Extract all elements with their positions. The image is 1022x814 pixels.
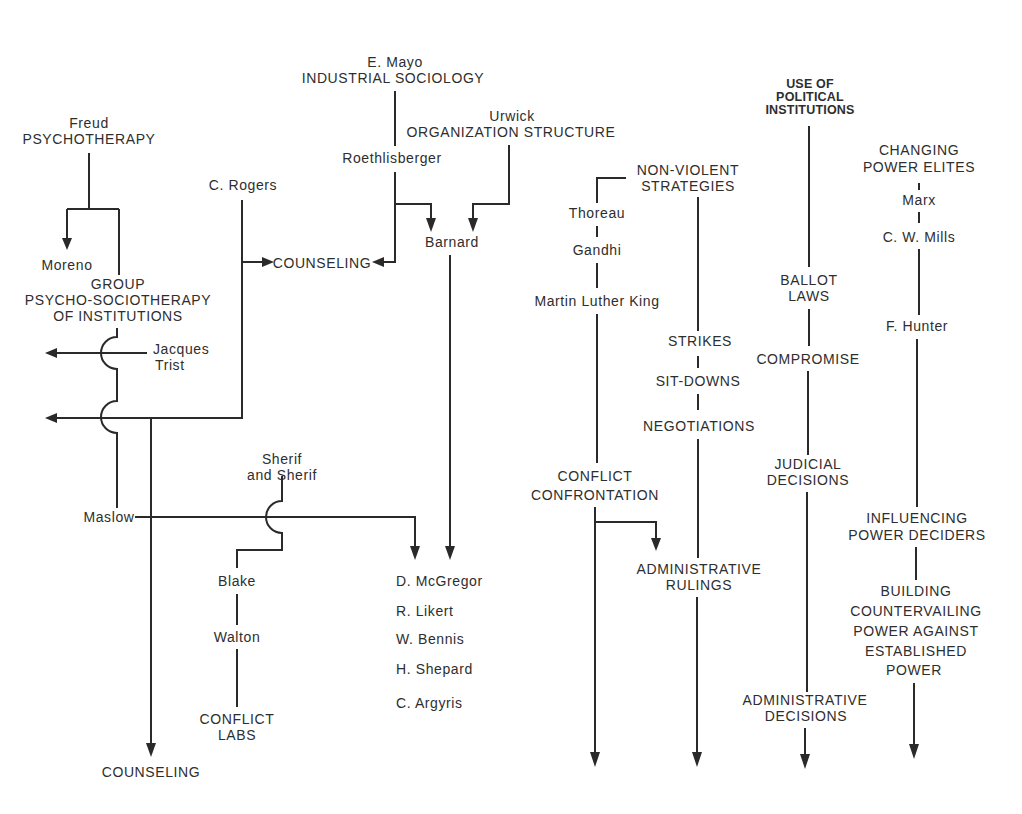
- political-line3: INSTITUTIONS: [765, 103, 854, 117]
- gandhi-label: Gandhi: [573, 242, 622, 258]
- admin-decisions-line1: ADMINISTRATIVE: [743, 692, 868, 708]
- roethlisberger-connector: [384, 172, 431, 262]
- power-elites-branch: CHANGING POWER ELITES Marx C. W. Mills F…: [848, 142, 986, 759]
- sherif-connector: [237, 476, 282, 568]
- counseling-bottom-label: COUNSELING: [102, 764, 201, 780]
- sherif-label-line1: Sherif: [262, 451, 302, 467]
- list-item: W. Bennis: [396, 631, 464, 647]
- power-elites-line2: POWER ELITES: [863, 159, 975, 175]
- king-label: Martin Luther King: [534, 293, 659, 309]
- conflict-labs-line2: LABS: [218, 727, 256, 743]
- list-item: H. Shepard: [396, 661, 473, 677]
- negotiations-label: NEGOTIATIONS: [643, 418, 755, 434]
- group-label-line1: GROUP: [91, 276, 145, 292]
- confrontation-line1: CONFLICT: [558, 468, 633, 484]
- power-elites-line1: CHANGING: [879, 142, 959, 158]
- admin-decisions-line2: DECISIONS: [765, 708, 847, 724]
- industrial-sociology-label: INDUSTRIAL SOCIOLOGY: [302, 70, 485, 86]
- arrow-down-icon: [146, 743, 156, 757]
- non-violent-line1: NON-VIOLENT: [637, 162, 739, 178]
- list-item: C. Argyris: [396, 695, 463, 711]
- barnard-label: Barnard: [425, 234, 479, 250]
- blake-label: Blake: [218, 573, 256, 589]
- trist-label: Trist: [155, 357, 185, 373]
- human-relations-list: D. McGregor R. Likert W. Bennis H. Shepa…: [396, 573, 483, 711]
- influencing-line2: POWER DECIDERS: [848, 527, 986, 543]
- walton-label: Walton: [214, 629, 261, 645]
- urwick-connector: [473, 145, 509, 220]
- arrow-down-icon: [590, 752, 600, 767]
- political-line2: POLITICAL: [776, 90, 844, 104]
- arrow-down-icon: [651, 538, 661, 551]
- freud-label: Freud: [69, 115, 109, 131]
- countervailing-line4: ESTABLISHED: [865, 643, 967, 659]
- arrow-left-icon: [45, 348, 57, 358]
- non-violent-branch: NON-VIOLENT STRATEGIES Thoreau Gandhi Ma…: [531, 162, 761, 767]
- confrontation-connector: [595, 507, 656, 755]
- mayo-label: E. Mayo: [367, 54, 423, 70]
- rogers-branch: C. Rogers COUNSELING COUNSELING: [45, 177, 371, 780]
- moreno-label: Moreno: [41, 257, 92, 273]
- jacques-label: Jacques: [153, 341, 209, 357]
- non-violent-line2: STRATEGIES: [641, 178, 735, 194]
- political-institutions-branch: USE OF POLITICAL INSTITUTIONS BALLOT LAW…: [743, 77, 868, 769]
- compromise-label: COMPROMISE: [756, 351, 859, 367]
- arrow-down-icon: [426, 218, 436, 232]
- influencing-line1: INFLUENCING: [866, 510, 968, 526]
- arrow-left-icon: [372, 257, 384, 267]
- urwick-label: Urwick: [489, 108, 535, 124]
- countervailing-line1: BUILDING: [881, 583, 952, 599]
- political-line1: USE OF: [786, 77, 834, 91]
- arrow-down-icon: [800, 754, 810, 769]
- countervailing-line2: COUNTERVAILING: [850, 603, 982, 619]
- counseling-center-label: COUNSELING: [273, 255, 372, 271]
- countervailing-line3: POWER AGAINST: [853, 623, 978, 639]
- sit-downs-label: SIT-DOWNS: [656, 373, 741, 389]
- thoreau-label: Thoreau: [569, 205, 625, 221]
- non-violent-left-connector: [597, 178, 626, 203]
- group-label-line3: OF INSTITUTIONS: [53, 308, 183, 324]
- confrontation-line2: CONFRONTATION: [531, 487, 659, 503]
- judicial-line2: DECISIONS: [767, 472, 849, 488]
- sherif-branch: Sherif and Sherif Blake Walton CONFLICT …: [135, 451, 420, 743]
- organization-structure-label: ORGANIZATION STRUCTURE: [407, 124, 616, 140]
- admin-rulings-line2: RULINGS: [666, 577, 732, 593]
- psychotherapy-label: PSYCHOTHERAPY: [22, 131, 155, 147]
- rogers-label: C. Rogers: [209, 177, 277, 193]
- strikes-label: STRIKES: [668, 333, 732, 349]
- arrow-down-icon: [692, 752, 702, 767]
- group-label-line2: PSYCHO-SOCIOTHERAPY: [25, 292, 211, 308]
- mills-label: C. W. Mills: [883, 229, 956, 245]
- conflict-intervention-lineage-diagram: Freud PSYCHOTHERAPY Moreno GROUP PSYCHO-…: [0, 0, 1022, 814]
- conflict-labs-line1: CONFLICT: [200, 711, 275, 727]
- list-item: D. McGregor: [396, 573, 483, 589]
- hunter-label: F. Hunter: [886, 318, 948, 334]
- arrow-down-icon: [410, 546, 420, 560]
- arrow-down-icon: [909, 744, 919, 759]
- arrow-down-icon: [445, 546, 455, 560]
- arrow-down-icon: [62, 238, 72, 250]
- ballot-line1: BALLOT: [780, 272, 837, 288]
- maslow-label: Maslow: [83, 509, 134, 525]
- judicial-line1: JUDICIAL: [774, 456, 841, 472]
- admin-rulings-line1: ADMINISTRATIVE: [637, 561, 762, 577]
- countervailing-line5: POWER: [886, 662, 942, 678]
- ballot-line2: LAWS: [788, 288, 830, 304]
- list-item: R. Likert: [396, 603, 454, 619]
- psychotherapy-branch: Freud PSYCHOTHERAPY Moreno GROUP PSYCHO-…: [22, 115, 211, 525]
- arrow-down-icon: [468, 218, 478, 232]
- roethlisberger-label: Roethlisberger: [342, 150, 441, 166]
- arrow-left-icon: [45, 413, 57, 423]
- marx-label: Marx: [902, 192, 936, 208]
